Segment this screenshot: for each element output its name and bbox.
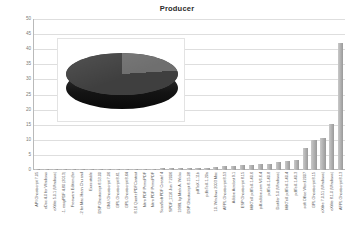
bar[interactable]: [195, 168, 200, 170]
x-axis-label-slot: ScanSoft PDF Create! 4: [158, 171, 167, 243]
x-axis-tick-label: pdfTeX-1.40.3: [294, 172, 298, 196]
x-axis-tick-label: GPL Ghostscript 8.61: [116, 172, 120, 208]
bar[interactable]: [160, 168, 165, 170]
y-axis-tick-label: 0: [14, 168, 31, 173]
bar[interactable]: [88, 169, 93, 170]
bar[interactable]: [106, 169, 111, 171]
x-axis-tick-label: GNU Ghostscript 7.06: [107, 172, 111, 209]
bar[interactable]: [258, 164, 263, 170]
bar[interactable]: [240, 165, 245, 170]
y-axis-tick-label: 10: [14, 138, 31, 143]
bar[interactable]: [231, 166, 236, 170]
x-axis-tick-label: Nitro PDF PrimoPDF: [143, 172, 147, 207]
bar[interactable]: [53, 169, 58, 170]
bar[interactable]: [213, 167, 218, 170]
bar[interactable]: [285, 161, 290, 170]
bar[interactable]: [151, 169, 156, 171]
x-axis-label-slot: Adobe Acrobat 9.1: [229, 171, 238, 243]
bar[interactable]: [222, 166, 227, 170]
bar[interactable]: [115, 169, 120, 171]
x-axis-tick-label: API Ghostscript 7.05: [36, 172, 40, 207]
x-axis-tick-label: pdfeTeX-1.20a: [205, 172, 209, 197]
x-axis-label-slot: API Ghostscript 7.05: [33, 171, 42, 243]
bar-slot: [283, 19, 292, 170]
bar[interactable]: [276, 162, 281, 170]
x-axis-tick-label: 8.16 Quartz PDFContext: [134, 172, 138, 214]
bar[interactable]: [249, 165, 254, 170]
bar[interactable]: [35, 169, 40, 170]
x-axis-tick-label: GPL Ghostscript 8.15: [312, 172, 316, 208]
x-axis-label-slot: SPDF_1116 Jun 7 2006: [167, 171, 176, 243]
x-axis-tick-label: Executable: [89, 172, 93, 191]
x-axis-label-slot: Nitro PDF PrimoPDF: [140, 171, 149, 243]
x-axis-tick-label: ESP Ghostscript 8.15: [241, 172, 245, 208]
x-axis-label-slot: 10. Windows 2003 Mac: [211, 171, 220, 243]
x-axis-label-slot: GPL Ghostscript 8.15: [310, 171, 319, 243]
x-axis-label-slot: AFPL Ghostscript 8.13: [336, 171, 345, 243]
y-axis-tick-label: 35: [14, 62, 31, 67]
x-axis-tick-label: DSP Ghostscript 8.15.08: [187, 172, 191, 214]
x-axis-tick-label: eDoc 4.0 for Windows: [44, 172, 48, 209]
bar[interactable]: [62, 169, 67, 170]
bar-slot: [292, 19, 301, 170]
bar[interactable]: [71, 169, 76, 170]
bar[interactable]: [124, 169, 129, 171]
bar[interactable]: [294, 160, 299, 170]
x-axis-label-slot: pdfTeX-1.40.3: [292, 171, 301, 243]
bar[interactable]: [44, 169, 49, 170]
y-axis-tick-label: 30: [14, 77, 31, 82]
bar[interactable]: [178, 168, 183, 170]
bar-slot: [247, 19, 256, 170]
y-axis-tick-label: 25: [14, 92, 31, 97]
bar-slot: [220, 19, 229, 170]
x-axis-label-slot: MiKTeX pdfTeX-1.40.6: [247, 171, 256, 243]
x-axis-tick-label: DSP Ghostscript 8.53.00: [98, 172, 102, 214]
x-axis-tick-label: AFPL Ghostscript 8.13: [339, 172, 343, 210]
x-axis-label-slot: eXtlite 5.0.1 (Windows): [51, 171, 60, 243]
x-axis-label-slot: ESP Ghostscript 8.15: [238, 171, 247, 243]
pie-chart-inset: [57, 38, 185, 122]
bar[interactable]: [169, 168, 174, 170]
bar[interactable]: [311, 140, 316, 170]
x-axis-label-slot: GPL Ghostscript 8.61: [113, 171, 122, 243]
pie-3d-top: [66, 53, 178, 95]
bar-slot: [203, 19, 212, 170]
bar[interactable]: [338, 43, 343, 170]
x-axis-label-slot: DSP Ghostscript 8.15.08: [185, 171, 194, 243]
x-axis-label-slot: pdfeTeX-1.20a: [203, 171, 212, 243]
x-axis-tick-label: Adobe Acrobat 9.1: [232, 172, 236, 203]
x-axis-tick-label: 10. Windows 2003 Mac: [214, 172, 218, 211]
x-axis-tick-label: -2 for Mac-Haan Chu and: [80, 172, 84, 215]
x-axis-labels: API Ghostscript 7.05eDoc 4.0 for Windows…: [33, 171, 345, 243]
bar-slot: [301, 19, 310, 170]
bar[interactable]: [204, 168, 209, 170]
x-axis-label-slot: eXtlite 8.1.0 (Windows): [327, 171, 336, 243]
x-axis-tick-label: Freeware Edition (for: [71, 172, 75, 207]
bar[interactable]: [187, 168, 192, 170]
x-axis-tick-label: pdfTeX-1.11b: [196, 172, 200, 194]
bar[interactable]: [320, 138, 325, 170]
x-axis-label-slot: Freeware Edition (for: [69, 171, 78, 243]
x-axis-tick-label: SPDF_1116 Jun 7 2006: [169, 172, 173, 212]
bar[interactable]: [329, 124, 334, 171]
bar-slot: [229, 19, 238, 170]
x-axis-label-slot: eDoc 4.0 for Windows: [42, 171, 51, 243]
bar[interactable]: [142, 169, 147, 171]
pie-slices: [66, 53, 178, 95]
x-axis-tick-label: AFPL Ghostscript 8.53: [223, 172, 227, 210]
x-axis-label-slot: pdfTeX-1.11b: [194, 171, 203, 243]
x-axis-label-slot: -2 for Mac-Haan Chu and: [78, 171, 87, 243]
x-axis-tick-label: soft Office Word 2007: [303, 172, 307, 208]
y-axis-tick-label: 20: [14, 107, 31, 112]
bar[interactable]: [97, 169, 102, 171]
bar[interactable]: [79, 169, 84, 170]
bar[interactable]: [303, 148, 308, 170]
bar-slot: [274, 19, 283, 170]
x-axis-tick-label: GPL Ghostscript 8.64: [125, 172, 129, 208]
bar[interactable]: [133, 169, 138, 171]
bar[interactable]: [267, 164, 272, 170]
x-axis-tick-label: ScanSoft PDF Create! 4: [160, 172, 164, 213]
x-axis-label-slot: eXtlite 7.0.51 (Windows): [319, 171, 328, 243]
bar-slot: [238, 19, 247, 170]
x-axis-tick-label: Distiller 5.0 (Windows): [276, 172, 280, 210]
